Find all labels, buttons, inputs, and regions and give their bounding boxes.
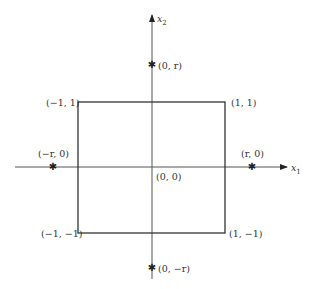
star-marker-icon: ✱ <box>49 162 57 172</box>
point-label-0-r: (0, r) <box>158 61 182 71</box>
diagram-svg <box>0 0 309 289</box>
x1-axis-label: x1 <box>291 163 301 176</box>
point-label-0-neg-r: (0, −r) <box>158 264 190 274</box>
x2-axis-label: x2 <box>157 14 167 27</box>
star-marker-icon: ✱ <box>148 263 156 273</box>
origin-label: (0, 0) <box>156 172 182 182</box>
point-label-neg-r-0: (−r, 0) <box>38 149 69 159</box>
corner-label-top-right: (1, 1) <box>231 98 257 108</box>
star-marker-icon: ✱ <box>148 60 156 70</box>
star-marker-icon: ✱ <box>248 162 256 172</box>
corner-label-top-left: (−1, 1) <box>46 98 80 108</box>
coordinate-diagram: x2 x1 (−1, 1) (1, 1) (−1, −1) (1, −1) (0… <box>0 0 309 289</box>
corner-label-bottom-left: (−1, −1) <box>41 229 82 239</box>
point-label-r-0: (r, 0) <box>241 149 264 159</box>
corner-label-bottom-right: (1, −1) <box>229 229 263 239</box>
